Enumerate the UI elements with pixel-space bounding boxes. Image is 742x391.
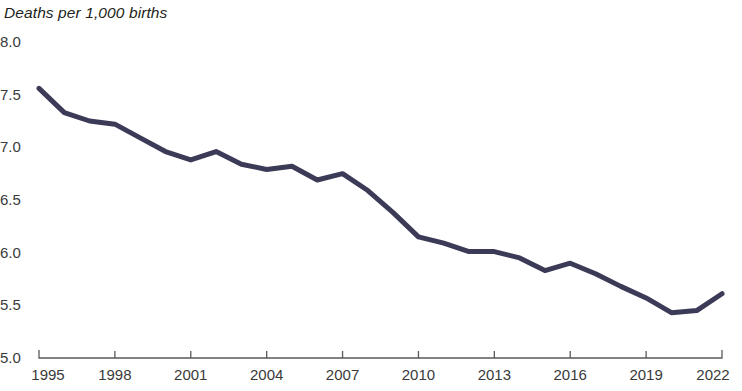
plot-area bbox=[0, 0, 742, 391]
x-axis-line bbox=[39, 350, 722, 358]
x-axis bbox=[39, 350, 722, 358]
infant-mortality-line-chart: Deaths per 1,000 births 8.07.57.06.56.05… bbox=[0, 0, 742, 391]
data-series-line bbox=[39, 88, 722, 312]
x-axis-ticks bbox=[115, 351, 646, 358]
